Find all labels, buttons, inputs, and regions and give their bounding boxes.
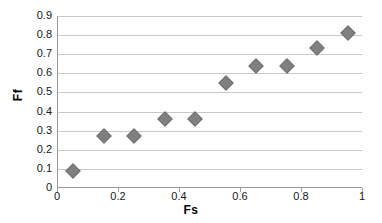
gridline (58, 150, 362, 151)
y-axis-tick-label: 0.9 (6, 10, 52, 21)
gridline (58, 169, 362, 170)
data-point (340, 25, 356, 41)
plot-area (57, 16, 362, 188)
x-axis-tick-label: 0.8 (293, 191, 308, 202)
y-axis-tick-label: 0.7 (6, 48, 52, 59)
gridline (58, 112, 362, 113)
x-axis-tick-label: 0.4 (171, 191, 186, 202)
y-axis-tick-label: 0.1 (6, 163, 52, 174)
y-axis-tick-label: 0.3 (6, 125, 52, 136)
data-point (248, 58, 264, 74)
gridline (58, 35, 362, 36)
data-point (279, 58, 295, 74)
x-axis-tick-label: 1 (359, 191, 365, 202)
gridline (58, 73, 362, 74)
y-axis-tick-label: 0.2 (6, 144, 52, 155)
y-axis-tick-label: 0.8 (6, 29, 52, 40)
scatter-chart: 00.10.20.30.40.50.60.70.80.9 00.20.40.60… (0, 0, 382, 223)
x-axis-tick-label: 0.6 (232, 191, 247, 202)
data-point (65, 163, 81, 179)
data-point (187, 111, 203, 127)
x-axis-title: Fs (0, 203, 382, 217)
x-axis-tick-label: 0.2 (110, 191, 125, 202)
data-point (218, 75, 234, 91)
y-axis-tick-label: 0 (6, 182, 52, 193)
x-axis-tick-label: 0 (54, 191, 60, 202)
y-axis-title: Ff (11, 65, 25, 125)
gridline (58, 92, 362, 93)
data-point (157, 111, 173, 127)
gridline (58, 16, 362, 17)
